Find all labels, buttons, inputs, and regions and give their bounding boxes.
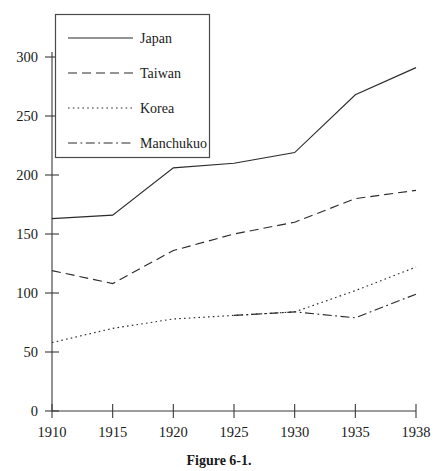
x-tick-label: 1910 — [38, 424, 67, 440]
y-tick-label: 200 — [16, 167, 38, 183]
x-tick-label: 1925 — [220, 424, 249, 440]
line-chart: 050100150200250300 191019151920192519301… — [0, 0, 438, 471]
legend-label-manchukuo: Manchukuo — [140, 136, 207, 151]
legend-label-taiwan: Taiwan — [140, 66, 181, 81]
series-line-taiwan — [52, 190, 416, 283]
legend-label-korea: Korea — [140, 101, 175, 116]
y-tick-label: 50 — [24, 344, 39, 360]
legend-label-japan: Japan — [140, 31, 172, 46]
x-tick-label: 1915 — [98, 424, 127, 440]
x-tick-label: 1920 — [159, 424, 188, 440]
y-tick-label: 300 — [16, 49, 38, 65]
figure-container: 050100150200250300 191019151920192519301… — [0, 0, 438, 471]
y-tick-label: 250 — [16, 108, 38, 124]
legend: JapanTaiwanKoreaManchukuo — [56, 15, 210, 158]
y-tick-label: 0 — [31, 403, 38, 419]
x-tick-label: 1938 — [402, 424, 431, 440]
x-axis-ticks: 1910191519201925193019351938 — [38, 404, 431, 440]
x-tick-label: 1930 — [280, 424, 309, 440]
y-axis-ticks: 050100150200250300 — [16, 49, 59, 419]
y-tick-label: 150 — [16, 226, 38, 242]
figure-caption: Figure 6-1. — [186, 453, 251, 468]
series-line-korea — [52, 267, 416, 343]
x-tick-label: 1935 — [341, 424, 370, 440]
y-tick-label: 100 — [16, 285, 38, 301]
